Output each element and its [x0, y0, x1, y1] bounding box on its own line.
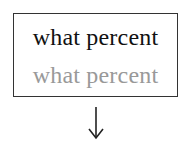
secondary-text: what percent: [14, 62, 177, 89]
text-box: what percent what percent: [13, 13, 178, 97]
arrow-down-icon: [86, 104, 106, 142]
primary-text: what percent: [14, 24, 177, 51]
